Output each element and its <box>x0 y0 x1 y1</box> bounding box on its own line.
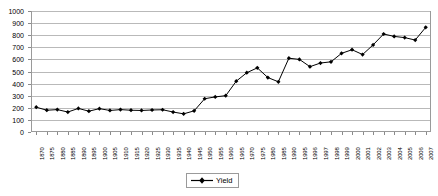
x-tick-label: 1980 <box>270 147 276 160</box>
y-tick-label: 1000 <box>8 8 24 15</box>
data-point-marker <box>160 108 164 112</box>
x-tick-label: 1885 <box>70 147 76 160</box>
x-tick-mark <box>99 132 100 135</box>
x-tick-label: 2002 <box>376 147 382 160</box>
y-tick-label: 600 <box>12 56 24 63</box>
data-point-marker <box>118 108 122 112</box>
x-tick-label: 2005 <box>407 147 413 160</box>
x-tick-mark <box>384 132 385 135</box>
x-tick-mark <box>120 132 121 135</box>
series-line <box>36 27 425 114</box>
series-yield <box>31 11 431 132</box>
x-tick-mark <box>394 132 395 135</box>
x-tick-label: 1940 <box>186 147 192 160</box>
x-tick-mark <box>331 132 332 135</box>
x-tick-mark <box>342 132 343 135</box>
x-tick-mark <box>289 132 290 135</box>
x-tick-mark <box>131 132 132 135</box>
x-tick-mark <box>363 132 364 135</box>
y-tick-label: 200 <box>12 104 24 111</box>
data-point-marker <box>171 110 175 114</box>
x-tick-label: 1998 <box>334 147 340 160</box>
data-point-marker <box>318 61 322 65</box>
data-point-marker <box>350 48 354 52</box>
x-tick-mark <box>268 132 269 135</box>
data-point-marker <box>55 108 59 112</box>
x-tick-mark <box>194 132 195 135</box>
x-tick-label: 1950 <box>207 147 213 160</box>
chart-container: 01002003004005006007008009001000 1870187… <box>0 0 438 196</box>
x-tick-mark <box>110 132 111 135</box>
x-tick-mark <box>205 132 206 135</box>
x-tick-label: 1985 <box>281 147 287 160</box>
x-tick-label: 2007 <box>428 147 434 160</box>
data-point-marker <box>213 95 217 99</box>
y-tick-label: 400 <box>12 80 24 87</box>
data-point-marker <box>66 110 70 114</box>
x-tick-label: 1935 <box>176 147 182 160</box>
x-tick-mark <box>152 132 153 135</box>
x-tick-label: 1895 <box>91 147 97 160</box>
x-tick-mark <box>163 132 164 135</box>
data-point-marker <box>34 105 38 109</box>
x-tick-label: 1965 <box>239 147 245 160</box>
x-tick-label: 1870 <box>39 147 45 160</box>
y-tick-label: 500 <box>12 68 24 75</box>
data-point-marker <box>108 108 112 112</box>
x-tick-label: 1975 <box>260 147 266 160</box>
data-point-marker <box>287 56 291 60</box>
data-point-marker <box>150 108 154 112</box>
x-tick-label: 1997 <box>323 147 329 160</box>
x-tick-mark <box>257 132 258 135</box>
x-tick-mark <box>68 132 69 135</box>
chart-legend: Yield <box>186 173 239 188</box>
y-tick-label: 800 <box>12 32 24 39</box>
x-tick-mark <box>215 132 216 135</box>
x-tick-mark <box>184 132 185 135</box>
data-point-marker <box>182 112 186 116</box>
x-tick-mark <box>415 132 416 135</box>
x-tick-label: 1875 <box>49 147 55 160</box>
x-tick-label: 1999 <box>344 147 350 160</box>
x-tick-mark <box>36 132 37 135</box>
x-tick-mark <box>320 132 321 135</box>
x-tick-label: 2004 <box>397 147 403 160</box>
x-tick-mark <box>57 132 58 135</box>
x-tick-label: 2003 <box>386 147 392 160</box>
x-tick-label: 1925 <box>155 147 161 160</box>
x-tick-label: 1910 <box>123 147 129 160</box>
data-point-marker <box>87 109 91 113</box>
x-tick-mark <box>78 132 79 135</box>
y-tick-label: 900 <box>12 20 24 27</box>
x-tick-mark <box>373 132 374 135</box>
x-tick-label: 1990 <box>291 147 297 160</box>
y-tick-label: 700 <box>12 44 24 51</box>
x-tick-label: 1905 <box>112 147 118 160</box>
x-tick-mark <box>247 132 248 135</box>
x-tick-label: 2006 <box>418 147 424 160</box>
x-tick-label: 1945 <box>197 147 203 160</box>
x-tick-label: 1920 <box>144 147 150 160</box>
x-tick-label: 1995 <box>302 147 308 160</box>
data-point-marker <box>129 108 133 112</box>
data-point-marker <box>139 108 143 112</box>
x-tick-mark <box>173 132 174 135</box>
x-tick-mark <box>426 132 427 135</box>
x-tick-label: 1880 <box>60 147 66 160</box>
y-tick-label: 300 <box>12 92 24 99</box>
y-tick-label: 100 <box>12 116 24 123</box>
x-tick-mark <box>278 132 279 135</box>
data-point-marker <box>392 34 396 38</box>
data-point-marker <box>76 106 80 110</box>
legend-marker-icon <box>191 176 213 185</box>
x-tick-label: 1970 <box>249 147 255 160</box>
x-tick-mark <box>299 132 300 135</box>
y-tick-label: 0 <box>20 129 24 136</box>
x-tick-label: 1900 <box>102 147 108 160</box>
x-tick-mark <box>47 132 48 135</box>
x-tick-mark <box>405 132 406 135</box>
data-point-marker <box>45 108 49 112</box>
x-tick-mark <box>89 132 90 135</box>
x-tick-mark <box>226 132 227 135</box>
x-tick-label: 2000 <box>355 147 361 160</box>
